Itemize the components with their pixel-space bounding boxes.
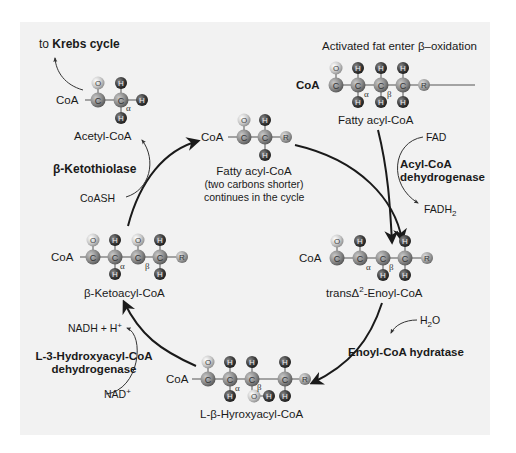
- nadh-label: NADH + H+: [68, 322, 122, 335]
- svg-text:β: β: [257, 382, 262, 392]
- enzyme-enoyl-coa-hydratase: Enoyl-CoA hydratase: [348, 346, 464, 359]
- arrow-keto-to-shorter: [128, 141, 198, 226]
- svg-text:α: α: [120, 261, 125, 271]
- fadh2-label: FADH2: [424, 203, 456, 216]
- ketoacyl-coa-coa-label: CoA: [51, 251, 73, 264]
- shorter-acyl-coa-atoms: [237, 114, 293, 162]
- arrow-h2o: [391, 320, 417, 333]
- entry-label: Activated fat enter β–oxidation: [322, 40, 477, 53]
- fadh2-sub: 2: [452, 209, 456, 218]
- acetyl-coa-name: Acetyl-CoA: [74, 130, 132, 143]
- arrow-to-krebs: [55, 58, 83, 90]
- hydroxyacyl-coa-coa-label: CoA: [166, 373, 188, 386]
- shorter-acyl-coa-name-line3: continues in the cycle: [204, 191, 304, 204]
- krebs-cycle-label: to Krebs cycle: [39, 38, 120, 51]
- enoyl-coa-name: transΔ2-Enoyl-CoA: [326, 287, 423, 300]
- svg-text:α: α: [366, 262, 371, 272]
- enzyme-step1-line1: Acyl-CoA: [400, 158, 485, 171]
- diagram-canvas: C H O R: [0, 0, 516, 453]
- nadh-text: NADH + H: [68, 322, 117, 334]
- nadh-sup: +: [117, 321, 122, 330]
- acetyl-coa-coa-label: CoA: [56, 94, 78, 107]
- enoyl-suffix: -Enoyl-CoA: [364, 287, 423, 299]
- arrow-enoyl-to-hydroxy: [312, 303, 382, 383]
- krebs-bold: Krebs cycle: [52, 37, 119, 51]
- fad-label: FAD: [426, 131, 446, 144]
- hydroxyacyl-coa-name: L-β-Hyroxyacyl-CoA: [200, 408, 303, 421]
- fadh2-base: FADH: [424, 203, 452, 215]
- h2o-label: H2O: [420, 314, 440, 327]
- fatty-acyl-coa-name: Fatty acyl-CoA: [338, 114, 413, 127]
- fatty-acyl-coa-coa-label: CoA: [296, 79, 320, 92]
- svg-text:β: β: [145, 261, 150, 271]
- enzyme-step1-line2: dehydrogenase: [400, 171, 485, 184]
- shorter-acyl-coa-name: Fatty acyl-CoA (two carbons shorter) con…: [204, 165, 304, 204]
- arrow-recycle-to-enoyl: [295, 145, 402, 240]
- svg-text:α: α: [126, 103, 131, 113]
- enoyl-prefix: transΔ: [326, 287, 359, 299]
- svg-text:β: β: [387, 89, 392, 99]
- svg-text:α: α: [364, 89, 369, 99]
- shorter-acyl-coa-name-line1: Fatty acyl-CoA: [204, 165, 304, 178]
- enoyl-coa-coa-label: CoA: [299, 252, 321, 265]
- nad-text: NAD: [104, 388, 126, 400]
- h2o-post: O: [432, 314, 440, 326]
- h2o-pre: H: [420, 314, 428, 326]
- nad-sup: +: [126, 387, 131, 396]
- cofactor-arrows: [55, 58, 423, 394]
- enzyme-step3-line1: L-3-Hydroxyacyl-CoA: [29, 350, 159, 363]
- enzyme-hydroxyacyl-dehydrogenase: L-3-Hydroxyacyl-CoA dehydrogenase: [29, 350, 159, 376]
- enzyme-ketothiolase: β-Ketothiolase: [53, 163, 136, 176]
- enzyme-acyl-coa-dehydrogenase: Acyl-CoA dehydrogenase: [400, 158, 485, 184]
- shorter-coa-label: CoA: [201, 131, 223, 144]
- shorter-acyl-coa-name-line2: (two carbons shorter): [204, 178, 304, 191]
- svg-text:α: α: [235, 383, 240, 393]
- coash-label: CoASH: [80, 192, 115, 205]
- nad-label: NAD+: [104, 388, 131, 401]
- acetyl-coa-atoms: [91, 77, 149, 125]
- arrow-fatty-to-enoyl: [378, 130, 392, 242]
- enzyme-step3-line2: dehydrogenase: [29, 363, 159, 376]
- svg-text:β: β: [389, 262, 394, 272]
- ketoacyl-coa-name: β-Ketoacyl-CoA: [84, 287, 165, 300]
- krebs-prefix: to: [39, 37, 52, 51]
